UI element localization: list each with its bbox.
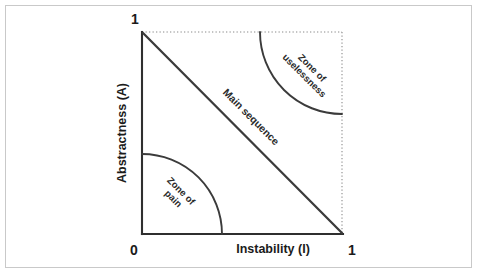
y-axis-title: Abstractness (A) (115, 83, 129, 183)
zone-of-pain-label: Zone of pain (157, 175, 198, 216)
y-axis-max-tick-label: 1 (131, 11, 139, 27)
x-axis-max-tick-label: 1 (348, 242, 356, 258)
main-sequence-plot: 1 0 1 Instability (I) Abstractness (A) M… (0, 0, 480, 274)
main-sequence-label: Main sequence (221, 87, 282, 148)
origin-tick-label: 0 (130, 242, 138, 258)
figure-root: 1 0 1 Instability (I) Abstractness (A) M… (0, 0, 480, 274)
zone-of-uselessness-label: Zone of uselessness (280, 44, 336, 100)
x-axis-title: Instability (I) (236, 242, 310, 256)
